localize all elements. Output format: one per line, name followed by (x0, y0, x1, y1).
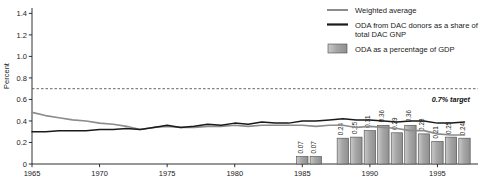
y-tick-label: 0.2 (17, 138, 27, 147)
bar (364, 131, 375, 164)
bar-group: 0.24 (337, 122, 349, 164)
bar-value-label: 0.07 (297, 141, 304, 154)
y-tick-label: 1.4 (17, 9, 27, 18)
bar-group: 0.36 (378, 110, 390, 164)
x-tick-label: 1985 (294, 169, 311, 178)
series-line (32, 119, 464, 132)
x-tick-label: 1970 (91, 169, 108, 178)
bar-group: 0.25 (445, 121, 456, 164)
bar (432, 141, 443, 164)
y-tick-label: 0.6 (17, 95, 27, 104)
y-tick-label: 0.4 (17, 117, 27, 126)
y-tick-label: 1.0 (17, 52, 27, 61)
x-tick-label: 1980 (226, 169, 243, 178)
bar-group: 0.31 (364, 115, 376, 164)
y-axis-title: Percent (2, 62, 11, 89)
bar (351, 137, 362, 164)
y-tick-label: 1.2 (17, 31, 27, 40)
chart-legend: Weighted averageODA from DAC donors as a… (327, 6, 479, 54)
bar-group: 0.28 (418, 118, 429, 164)
legend-swatch-bars (328, 44, 347, 53)
oda-percent-chart: 00.20.40.60.81.01.21.4Percent19651970197… (0, 0, 486, 185)
bar-value-label: 0.24 (459, 122, 466, 135)
x-tick-label: 1975 (159, 169, 176, 178)
legend-label-weighted-average: Weighted average (355, 6, 417, 15)
bar-value-label: 0.07 (310, 141, 317, 154)
bar-group: 0.07 (297, 141, 309, 164)
bar (418, 134, 429, 164)
bar (445, 137, 456, 164)
legend-label-oda-gdp: ODA as a percentage of GDP (355, 45, 455, 54)
bar (378, 125, 389, 164)
chart-figure: 00.20.40.60.81.01.21.4Percent19651970197… (0, 0, 486, 185)
bar-group: 0.24 (459, 122, 471, 164)
y-tick-label: 0 (23, 160, 27, 169)
target-annotation: 0.7% target (432, 95, 471, 104)
bar (459, 138, 470, 164)
bar-group: 0.29 (391, 117, 402, 164)
x-tick-label: 1990 (362, 169, 379, 178)
legend-label-dac-share-line2: total DAC GNP (355, 30, 406, 39)
x-tick-label: 1995 (429, 169, 446, 178)
bar (391, 133, 402, 164)
bar-group: 0.07 (310, 141, 322, 164)
bar-value-label: 0.28 (418, 118, 425, 131)
bar (337, 138, 348, 164)
bar (310, 156, 321, 164)
legend-label-dac-share: ODA from DAC donors as a share of (355, 21, 479, 30)
bar-group: 0.36 (405, 110, 417, 164)
y-tick-label: 0.8 (17, 74, 27, 83)
bar-group: 0.21 (432, 126, 444, 164)
bar-value-label: 0.24 (337, 122, 344, 135)
x-tick-label: 1965 (24, 169, 41, 178)
bar (297, 156, 308, 164)
